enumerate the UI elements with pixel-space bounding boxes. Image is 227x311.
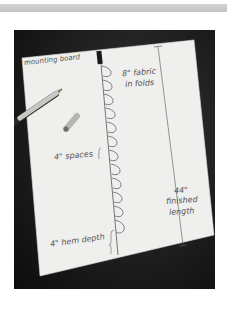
diagram-photo: mounting board 8" fabric in folds 4" spa… — [14, 30, 215, 289]
label-length-line1: 44" — [174, 187, 188, 196]
top-divider-bar — [0, 4, 227, 12]
paper-sheet — [14, 30, 215, 289]
